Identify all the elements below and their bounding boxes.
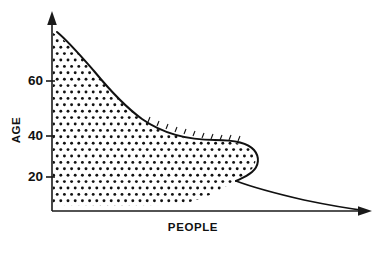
chart-canvas: 60 40 20 AGE PEOPLE xyxy=(0,0,389,256)
age-distribution-chart: 60 40 20 AGE PEOPLE xyxy=(0,0,389,256)
x-axis-arrow-icon xyxy=(358,206,372,216)
distribution-tail xyxy=(236,181,368,211)
x-axis-title: PEOPLE xyxy=(168,221,218,233)
y-tick-label-20: 20 xyxy=(28,169,43,184)
distribution-curve xyxy=(57,32,258,181)
y-axis-title: AGE xyxy=(10,117,22,144)
y-tick-label-40: 40 xyxy=(28,128,43,143)
y-axis-arrow-icon xyxy=(47,11,57,25)
y-tick-label-60: 60 xyxy=(28,73,43,88)
